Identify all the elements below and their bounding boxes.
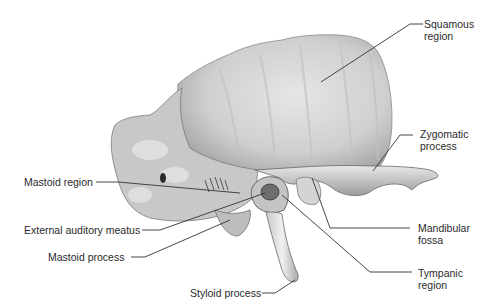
- temporal-bone-figure: Squamous region Zygomatic process Mandib…: [0, 0, 497, 306]
- label-styloid-process: Styloid process: [190, 287, 261, 299]
- styloid-process-shape: [266, 212, 298, 282]
- squamous-region-shape: [178, 35, 393, 170]
- label-tympanic-region: Tympanic region: [418, 267, 463, 291]
- label-squamous-region: Squamous region: [424, 18, 474, 42]
- label-mastoid-region: Mastoid region: [24, 176, 93, 188]
- label-zygomatic-process: Zygomatic process: [420, 128, 468, 152]
- leader-tympanic: [282, 195, 412, 272]
- leader-mastoid-process: [131, 220, 230, 257]
- label-line-1: Mandibular: [418, 222, 470, 234]
- label-mastoid-process: Mastoid process: [48, 251, 124, 263]
- label-line-2: region: [424, 30, 474, 42]
- label-line-2: fossa: [418, 234, 470, 246]
- label-external-auditory-meatus: External auditory meatus: [24, 224, 140, 236]
- label-line-1: Zygomatic: [420, 128, 468, 140]
- label-line-2: process: [420, 140, 468, 152]
- mastoid-process-shape: [215, 210, 250, 236]
- label-mandibular-fossa: Mandibular fossa: [418, 222, 470, 246]
- label-line-1: Tympanic: [418, 267, 463, 279]
- label-line-2: region: [418, 279, 463, 291]
- mastoid-foramen: [160, 173, 166, 183]
- label-line-1: Squamous: [424, 18, 474, 30]
- auditory-meatus-opening: [261, 184, 279, 200]
- leader-styloid-process: [262, 280, 295, 293]
